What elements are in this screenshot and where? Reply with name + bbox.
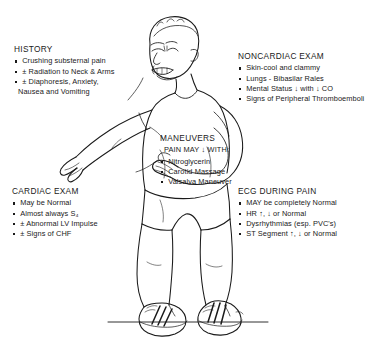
callout-maneuvers-list: Nitroglycerin Carotid Massage Valsalva M… [160,157,232,187]
callout-noncardiac-exam-list: Skin-cool and clammy Lungs - Bibasilar R… [238,63,364,103]
hand-left-lower [68,168,83,182]
neck-right [191,74,197,90]
shoe-right-stripe-3 [221,305,226,324]
leader-line-history [128,78,143,100]
callout-maneuvers-lead: PAIN MAY ↓ WITH: [160,145,232,155]
hand-left-finger-1 [65,163,79,170]
shoe-left-lace-1 [147,306,157,308]
mouth-lower [152,70,173,75]
shoe-left-outline [139,303,186,336]
shirt-collar [175,91,197,98]
shorts-inseam [172,214,201,230]
list-item: Dysrhythmias (esp. PVC's) [238,219,337,229]
eye-right-closed [168,48,178,51]
eye-left-closed [152,49,164,51]
plusminus-symbol: ± [20,229,24,238]
hairline [154,25,198,36]
nose [154,53,160,64]
eyebrow-outer [151,43,164,45]
list-item-label: Signs of CHF [27,229,72,238]
shoe-left-stripe-3 [164,309,172,326]
callout-noncardiac-exam-title: NONCARDIAC EXAM [238,51,364,61]
list-item: Lungs - Bibasilar Rales [238,74,364,84]
callout-cardiac-exam-list: May be Normal Almost always S₄ ± Abnorma… [12,198,98,238]
list-item: MAY be completely Normal [238,198,337,208]
shorts-hem-left [142,224,172,230]
callout-maneuvers: MANEUVERS PAIN MAY ↓ WITH: Nitroglycerin… [160,133,232,187]
glabellar-line-1 [164,46,165,51]
plusminus-symbol: ± [22,77,26,86]
list-item: ± Abnormal LV Impulse [12,219,98,229]
shorts-fold [160,200,163,222]
callout-history-list: Crushing substernal pain ± Radiation to … [14,56,115,96]
list-item: Almost always S₄ [12,209,98,219]
arm-left-lower-edge [83,128,150,170]
list-item: ± Radiation to Neck & Arms [14,67,115,77]
plusminus-symbol: ± [20,219,24,228]
list-item: Nitroglycerin [160,157,232,167]
list-item: Crushing substernal pain [14,56,115,66]
leg-right-outer [225,219,232,306]
callout-ecg-during-pain-title: ECG DURING PAIN [238,186,337,196]
list-item: Signs of Peripheral Thromboemboli [238,94,364,104]
leg-left-inner [169,230,173,305]
list-item: Skin-cool and clammy [238,63,364,73]
callout-history-title: HISTORY [14,44,115,54]
list-item-label: Radiation to Neck & Arms [29,67,115,76]
callout-maneuvers-title: MANEUVERS [160,133,232,143]
list-item-label: Diaphoresis, Anxiety, [29,77,99,86]
list-item: Mental Status ↓ with ↓ CO [238,84,364,94]
leg-left-outer [137,224,144,307]
callout-ecg-during-pain-list: MAY be completely Normal HR ↑, ↓ or Norm… [238,198,337,238]
plusminus-symbol: ± [22,67,26,76]
hair-tuft-right [177,19,184,22]
knee-left [147,262,161,265]
list-item: Valsalva Maneuver [160,177,232,187]
list-item: Carotid Massage [160,167,232,177]
knee-right [206,264,222,267]
mouth-upper [152,68,173,70]
callout-noncardiac-exam: NONCARDIAC EXAM Skin-cool and clammy Lun… [238,51,364,104]
leg-right-inner [200,230,206,305]
hair-tuft-mid [167,19,174,22]
neck-left [175,79,177,93]
callout-ecg-during-pain: ECG DURING PAIN MAY be completely Normal… [238,186,337,239]
list-item: ST Segment ↑, ↓ or Normal [238,229,337,239]
list-item: ± Signs of CHF [12,229,98,239]
list-item: HR ↑, ↓ or Normal [238,209,337,219]
shorts-right-edge [227,184,230,219]
callout-cardiac-exam: CARDIAC EXAM May be Normal Almost always… [12,186,98,239]
list-item: May be Normal [12,198,98,208]
callout-cardiac-exam-title: CARDIAC EXAM [12,186,98,196]
medical-illustration-page: HISTORY Crushing substernal pain ± Radia… [0,0,378,353]
list-item: ± Diaphoresis, Anxiety, [14,77,115,87]
shoe-left-stripe-1 [152,306,160,324]
list-item-label: Abnormal LV Impulse [26,219,98,228]
eyebrow-inner [166,42,177,44]
shorts-hem-right [201,219,230,230]
list-item-continuation: Nausea and Vomiting [14,87,115,97]
shorts-left-edge [142,190,145,224]
shoe-left-lace-2 [145,310,155,312]
callout-history: HISTORY Crushing substernal pain ± Radia… [14,44,115,97]
